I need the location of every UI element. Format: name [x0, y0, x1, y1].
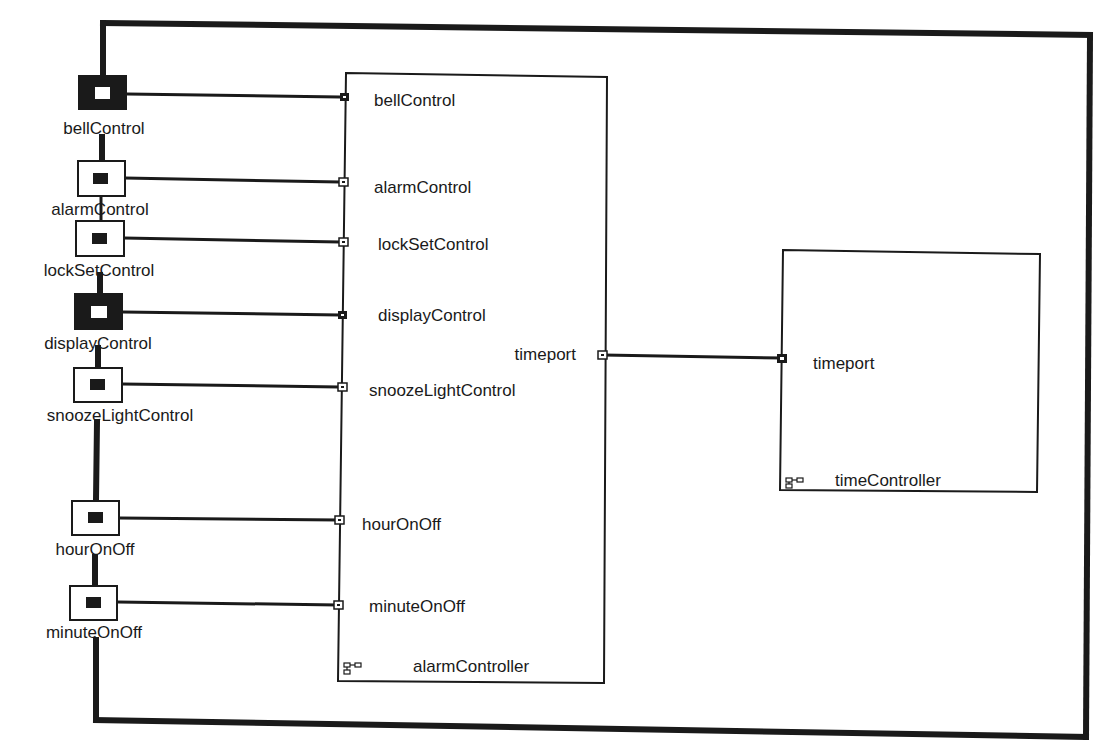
boundary-label-snoozeLightControl: snoozeLightControl [47, 406, 193, 425]
boundary-label-hourOnOff: hourOnOff [55, 540, 134, 559]
wire-alarmControl [125, 178, 340, 182]
boundary-port-alarmControl[interactable] [78, 161, 125, 196]
port-label-lockSetControl: lockSetControl [378, 235, 489, 254]
wire-minuteOnOff [118, 602, 338, 605]
boundary-port-snoozeLightControl[interactable] [74, 368, 122, 402]
port-label-bellControl: bellControl [374, 91, 455, 110]
capsule-alarmController[interactable] [334, 73, 607, 683]
boundary-port-hourOnOff[interactable] [72, 501, 119, 535]
capsule-name-alarmController: alarmController [413, 657, 530, 676]
boundary-port-lockSetControl[interactable] [76, 221, 124, 256]
boundary-label-lockSetControl: lockSetControl [44, 261, 155, 280]
boundary-label-bellControl: bellControl [63, 119, 144, 138]
wire-displayControl [123, 312, 340, 315]
port-label-snoozeLightControl: snoozeLightControl [369, 381, 515, 400]
boundary-label-minuteOnOff: minuteOnOff [46, 623, 142, 642]
boundary-port-bellControl[interactable] [78, 75, 127, 110]
boundary-port-displayControl[interactable] [74, 293, 123, 330]
port-label-minuteOnOff: minuteOnOff [369, 597, 465, 616]
capsule-name-timeController: timeController [835, 471, 941, 490]
wire-lockSetControl [124, 238, 340, 242]
wire-timeport [603, 355, 782, 358]
wire-snoozeLightControl [122, 384, 339, 387]
port-label-displayControl: displayControl [378, 306, 486, 325]
wire-bellControl [127, 94, 340, 97]
boundary-port-minuteOnOff[interactable] [70, 586, 117, 620]
port-label-timeport-alarm: timeport [515, 345, 577, 364]
port-label-timeport-time: timeport [813, 354, 875, 373]
boundary-label-displayControl: displayControl [44, 334, 152, 353]
port-label-alarmControl: alarmControl [374, 178, 471, 197]
capsule-structure-diagram: bellControl alarmControl lockSetControl … [0, 0, 1102, 751]
port-label-hourOnOff: hourOnOff [362, 515, 441, 534]
boundary-label-alarmControl: alarmControl [51, 200, 148, 219]
wire-hourOnOff [120, 518, 339, 520]
